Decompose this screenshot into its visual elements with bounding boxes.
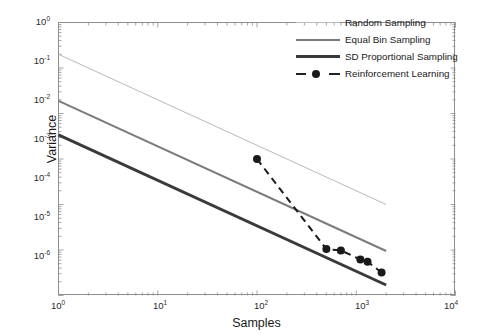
legend-swatch-equal-bin-sampling bbox=[296, 33, 340, 47]
legend-label: Reinforcement Learning bbox=[345, 69, 450, 79]
legend-marker-icon bbox=[312, 70, 320, 78]
x-tick-label: 100 bbox=[38, 300, 78, 311]
y-tick-label: 10-3 bbox=[6, 133, 50, 144]
y-tick-label: 10-5 bbox=[6, 211, 50, 222]
y-tick-label: 10-1 bbox=[6, 55, 50, 66]
figure-canvas: 100 10-1 10-2 10-3 10-4 10-5 10-6 100 10… bbox=[0, 0, 483, 336]
x-tick-label: 103 bbox=[342, 300, 382, 311]
x-tick-label: 101 bbox=[140, 300, 180, 311]
legend-label: Random Sampling bbox=[345, 18, 426, 28]
x-axis-title: Samples bbox=[58, 316, 455, 330]
x-tick-label: 104 bbox=[444, 300, 483, 311]
legend-swatch-sd-proportional-sampling bbox=[296, 50, 340, 64]
y-tick-label: 10-2 bbox=[6, 94, 50, 105]
legend-item-reinforcement-learning: Reinforcement Learning bbox=[296, 65, 482, 82]
y-axis-title: Variance bbox=[45, 79, 59, 199]
legend-item-random-sampling: Random Sampling bbox=[296, 14, 482, 31]
legend-swatch-random-sampling bbox=[296, 16, 340, 30]
legend-item-sd-proportional-sampling: SD Proportional Sampling bbox=[296, 48, 482, 65]
x-tick-label: 102 bbox=[241, 300, 281, 311]
legend-swatch-reinforcement-learning bbox=[296, 67, 340, 81]
y-tick-label: 10-6 bbox=[6, 250, 50, 261]
legend-label: SD Proportional Sampling bbox=[345, 52, 458, 62]
y-tick-label: 10-4 bbox=[6, 172, 50, 183]
legend-item-equal-bin-sampling: Equal Bin Sampling bbox=[296, 31, 482, 48]
legend-label: Equal Bin Sampling bbox=[345, 35, 431, 45]
y-tick-label: 100 bbox=[6, 16, 50, 27]
legend: Random Sampling Equal Bin Sampling SD Pr… bbox=[296, 14, 482, 82]
